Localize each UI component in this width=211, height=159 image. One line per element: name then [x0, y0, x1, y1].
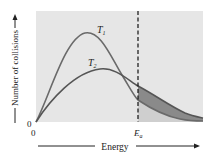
x-axis-label: Energy [101, 142, 129, 152]
energy-distribution-chart: T1 T2 0 0 Ea Energy Number of collisions [0, 0, 211, 159]
y-axis-label: Number of collisions [10, 30, 20, 106]
plot-area [36, 11, 203, 122]
y-axis-arrowhead [13, 14, 18, 20]
x-origin-label: 0 [31, 128, 36, 138]
x-axis-arrowhead [194, 144, 200, 149]
ea-tick-label: Ea [133, 128, 143, 139]
